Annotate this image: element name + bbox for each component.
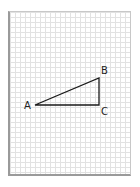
vertex-label-a: A [24, 101, 31, 111]
triangle-abc [35, 78, 99, 105]
vertex-label-b: B [101, 66, 108, 76]
vertex-label-c: C [101, 107, 108, 117]
triangle-figure [0, 0, 140, 187]
